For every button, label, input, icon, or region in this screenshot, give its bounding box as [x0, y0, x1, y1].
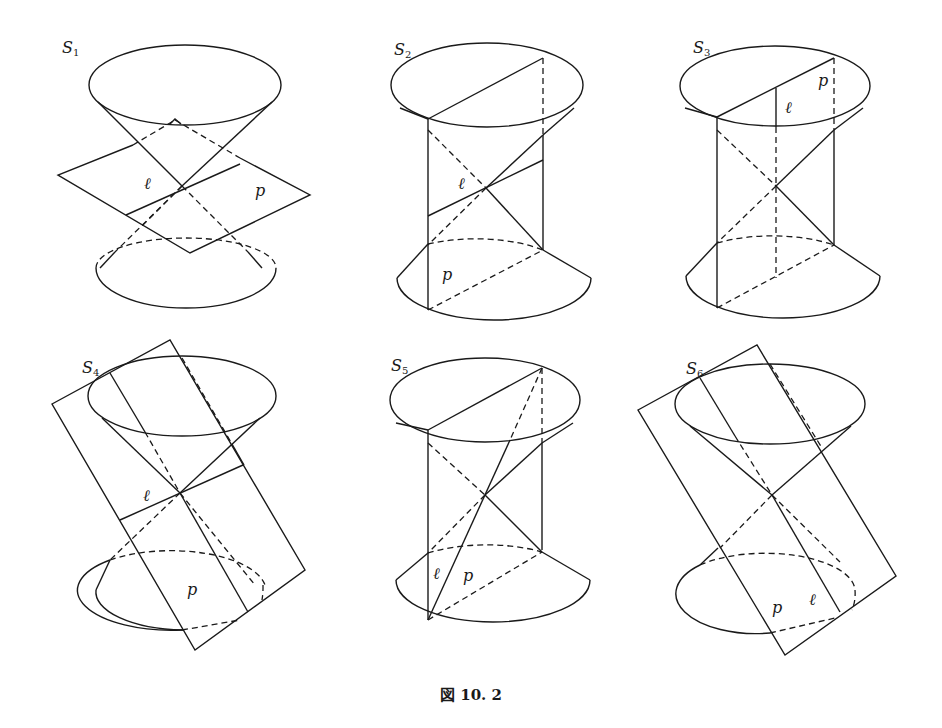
figure-caption: 図 10. 2: [0, 683, 942, 704]
panel-s2: [391, 43, 591, 320]
label-s5: S5: [391, 358, 408, 376]
label-s1: S1: [62, 40, 79, 58]
panel-s4: [52, 340, 305, 650]
label-s2-plane: p: [442, 267, 452, 283]
panel-s3: [680, 46, 880, 318]
label-s5-plane: p: [463, 568, 473, 584]
panel-s6: [638, 345, 896, 655]
figure-10-2: S1 ℓ p S2 ℓ p S3 ℓ p S4 ℓ p S5 ℓ p S6 ℓ …: [0, 0, 942, 728]
label-s2-line: ℓ: [458, 176, 465, 192]
panel-s5: [390, 358, 590, 622]
label-s4-plane: p: [187, 582, 197, 598]
label-s3: S3: [693, 40, 710, 58]
label-s1-plane: p: [255, 183, 265, 199]
label-s3-plane: p: [818, 73, 828, 89]
label-s3-line: ℓ: [785, 100, 792, 116]
label-s4: S4: [82, 360, 99, 378]
label-s6: S6: [686, 361, 703, 379]
label-s2: S2: [394, 42, 411, 60]
label-s6-line: ℓ: [809, 592, 816, 608]
panel-s1: [58, 45, 310, 308]
label-s5-line: ℓ: [433, 566, 440, 582]
label-s4-line: ℓ: [143, 488, 150, 504]
label-s1-line: ℓ: [144, 176, 151, 192]
cones-diagram: [0, 0, 942, 728]
label-s6-plane: p: [772, 600, 782, 616]
